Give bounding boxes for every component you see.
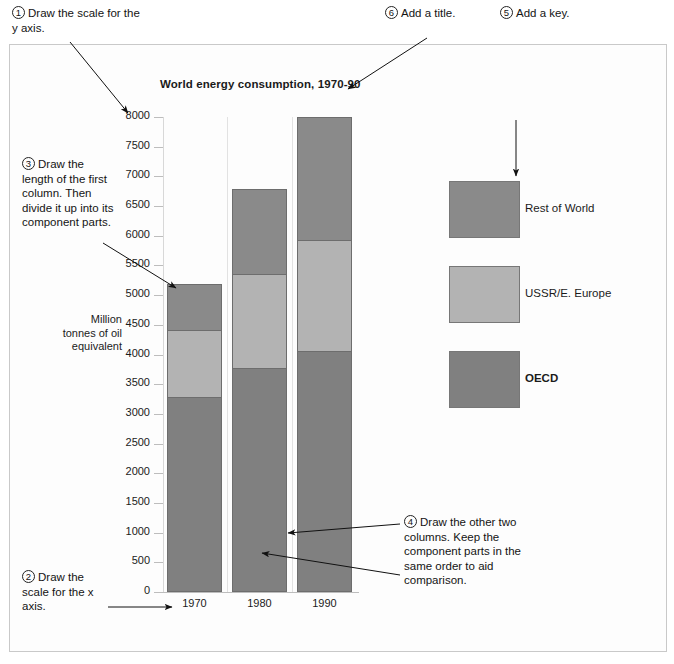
annotation-5-number: 5: [500, 6, 513, 19]
bar-segment-1970-oecd[interactable]: [167, 397, 222, 592]
chart-legend: Rest of WorldUSSR/E. EuropeOECD: [449, 181, 659, 436]
y-tick-label: 7000: [126, 168, 150, 180]
y-tick-5500: 5500: [0, 265, 163, 266]
bar-segment-1980-restofworld[interactable]: [232, 189, 287, 274]
y-tick-mark: [154, 473, 163, 474]
x-tick-1970: 1970: [165, 597, 225, 609]
y-tick-mark: [154, 176, 163, 177]
y-tick-label: 2000: [126, 465, 150, 477]
y-tick-2500: 2500: [0, 444, 163, 445]
y-tick-mark: [154, 295, 163, 296]
x-separator: [227, 117, 228, 593]
y-tick-label: 0: [144, 584, 150, 596]
y-tick-1000: 1000: [0, 533, 163, 534]
bar-segment-1980-ussreeurope[interactable]: [232, 274, 287, 367]
x-axis-line: [163, 592, 359, 593]
y-tick-3000: 3000: [0, 414, 163, 415]
y-tick-7500: 7500: [0, 147, 163, 148]
y-tick-mark: [154, 236, 163, 237]
y-tick-label: 6500: [126, 198, 150, 210]
y-tick-6000: 6000: [0, 236, 163, 237]
annotation-3-number: 3: [22, 157, 35, 170]
chart-title: World energy consumption, 1970-90: [160, 78, 361, 90]
y-axis-label: Million tonnes of oil equivalent: [58, 313, 122, 354]
y-tick-label: 5000: [126, 287, 150, 299]
y-tick-mark: [154, 444, 163, 445]
y-tick-label: 6000: [126, 228, 150, 240]
y-tick-3500: 3500: [0, 384, 163, 385]
y-tick-mark: [154, 592, 163, 593]
y-tick-label: 2500: [126, 436, 150, 448]
y-tick-4500: 4500: [0, 325, 163, 326]
y-tick-label: 3000: [126, 406, 150, 418]
bar-segment-1970-ussreeurope[interactable]: [167, 330, 222, 397]
y-tick-mark: [154, 384, 163, 385]
y-tick-mark: [154, 562, 163, 563]
legend-label-1: USSR/E. Europe: [525, 287, 611, 299]
y-tick-mark: [154, 325, 163, 326]
y-tick-mark: [154, 265, 163, 266]
x-tick-1980: 1980: [230, 597, 290, 609]
x-tick-1990: 1990: [295, 597, 355, 609]
annotation-1: 1Draw the scale for the y axis.: [12, 6, 142, 35]
annotation-3: 3Draw the length of the first column. Th…: [22, 157, 114, 230]
y-tick-5000: 5000: [0, 295, 163, 296]
legend-swatch-2: [449, 351, 520, 408]
y-tick-label: 7500: [126, 139, 150, 151]
legend-row-1: USSR/E. Europe: [449, 266, 659, 351]
y-tick-mark: [154, 355, 163, 356]
y-tick-label: 500: [132, 554, 150, 566]
legend-label-0: Rest of World: [525, 202, 594, 214]
y-tick-label: 3500: [126, 376, 150, 388]
annotation-1-text: Draw the scale for the y axis.: [12, 7, 140, 34]
annotation-4-number: 4: [404, 515, 417, 528]
y-tick-4000: 4000: [0, 355, 163, 356]
bar-1970[interactable]: [167, 117, 222, 592]
legend-row-0: Rest of World: [449, 181, 659, 266]
y-tick-8000: 8000: [0, 117, 163, 118]
bar-segment-1970-restofworld[interactable]: [167, 284, 222, 330]
y-tick-2000: 2000: [0, 473, 163, 474]
x-separator: [292, 117, 293, 593]
annotation-1-number: 1: [12, 6, 25, 19]
bar-segment-1990-ussreeurope[interactable]: [297, 240, 352, 351]
y-tick-mark: [154, 117, 163, 118]
bar-1990[interactable]: [297, 117, 352, 592]
y-tick-label: 4500: [126, 317, 150, 329]
y-tick-label: 1000: [126, 525, 150, 537]
y-tick-label: 5500: [126, 257, 150, 269]
annotation-5: 5Add a key.: [500, 6, 610, 21]
bar-segment-1990-oecd[interactable]: [297, 351, 352, 592]
y-tick-label: 4000: [126, 347, 150, 359]
bar-segment-1980-oecd[interactable]: [232, 368, 287, 592]
y-tick-mark: [154, 414, 163, 415]
annotation-4: 4Draw the other two columns. Keep the co…: [404, 515, 524, 588]
y-tick-1500: 1500: [0, 503, 163, 504]
annotation-4-text: Draw the other two columns. Keep the com…: [404, 516, 521, 586]
y-tick-mark: [154, 533, 163, 534]
annotation-6-text: Add a title.: [401, 7, 455, 19]
legend-swatch-1: [449, 266, 520, 323]
y-tick-mark: [154, 147, 163, 148]
bar-1980[interactable]: [232, 117, 287, 592]
annotation-3-text: Draw the length of the first column. The…: [22, 158, 113, 228]
legend-row-2: OECD: [449, 351, 659, 436]
y-tick-label: 8000: [126, 109, 150, 121]
legend-label-2: OECD: [525, 372, 558, 384]
legend-swatch-0: [449, 181, 520, 238]
bar-segment-1990-restofworld[interactable]: [297, 117, 352, 240]
annotation-2-number: 2: [22, 570, 35, 583]
annotation-6: 6Add a title.: [385, 6, 495, 21]
annotation-5-text: Add a key.: [516, 7, 570, 19]
annotation-6-number: 6: [385, 6, 398, 19]
y-tick-label: 1500: [126, 495, 150, 507]
y-tick-500: 500: [0, 562, 163, 563]
annotation-2: 2Draw the scale for the x axis.: [22, 570, 112, 614]
y-tick-mark: [154, 206, 163, 207]
y-tick-mark: [154, 503, 163, 504]
y-axis-line: [163, 117, 164, 593]
